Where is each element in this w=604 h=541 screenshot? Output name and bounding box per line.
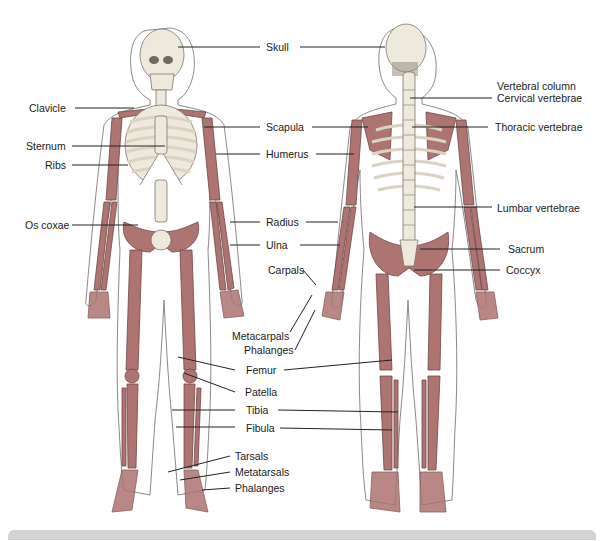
label-os-coxae: Os coxae — [25, 219, 69, 231]
label-humerus: Humerus — [266, 148, 309, 160]
label-vertebral-column: Vertebral column — [497, 80, 576, 92]
label-scapula: Scapula — [266, 121, 304, 133]
label-fibula: Fibula — [246, 422, 275, 434]
label-tarsals: Tarsals — [235, 450, 268, 462]
label-carpals: Carpals — [268, 264, 304, 276]
label-ribs: Ribs — [45, 159, 66, 171]
label-femur: Femur — [246, 364, 276, 376]
label-thoracic-vertebrae: Thoracic vertebrae — [495, 121, 583, 133]
label-tibia: Tibia — [246, 404, 268, 416]
label-lumbar-vertebrae: Lumbar vertebrae — [497, 202, 580, 214]
label-ulna: Ulna — [266, 239, 288, 251]
label-metacarpals: Metacarpals — [232, 330, 289, 342]
label-phalanges-hand: Phalanges — [244, 344, 294, 356]
label-radius: Radius — [266, 216, 299, 228]
label-patella: Patella — [245, 386, 277, 398]
label-metatarsals: Metatarsals — [235, 466, 289, 478]
anterior-skeleton — [86, 28, 244, 512]
label-clavicle: Clavicle — [29, 102, 66, 114]
label-cervical-vertebrae: Cervical vertebrae — [497, 92, 582, 104]
label-coccyx: Coccyx — [506, 264, 540, 276]
label-sacrum: Sacrum — [508, 243, 544, 255]
posterior-skeleton — [322, 24, 498, 512]
footer-bar — [8, 530, 596, 540]
label-sternum: Sternum — [26, 140, 66, 152]
label-skull: Skull — [266, 41, 289, 53]
label-phalanges-foot: Phalanges — [235, 482, 285, 494]
